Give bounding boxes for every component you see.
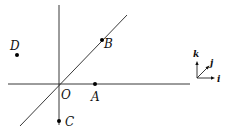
- point-d-label: D: [9, 39, 20, 53]
- point-b-label: B: [103, 37, 113, 51]
- point-a-label: A: [90, 90, 100, 104]
- basis-i-arrowhead: [211, 76, 215, 79]
- basis-k-arrowhead: [195, 61, 198, 65]
- coordinate-diagram: O A B C D k j i: [0, 0, 226, 137]
- diagonal-axis: [20, 15, 127, 126]
- origin-label: O: [61, 88, 71, 102]
- point-c: [57, 119, 61, 123]
- basis-triad: k j i: [193, 49, 221, 84]
- point-d: [15, 53, 19, 57]
- basis-j-vector: [197, 67, 208, 78]
- point-a: [93, 82, 97, 86]
- basis-k-label: k: [193, 49, 199, 59]
- point-c-label: C: [65, 115, 74, 129]
- basis-i-label: i: [217, 74, 221, 84]
